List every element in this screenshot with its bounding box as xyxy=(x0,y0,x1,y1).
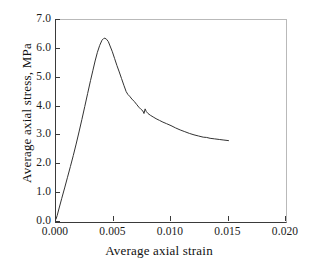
x-tick-mark xyxy=(113,216,114,221)
stress-strain-curve xyxy=(56,20,286,222)
curve-polyline xyxy=(56,38,229,219)
y-tick-mark xyxy=(55,192,60,193)
y-tick-mark xyxy=(55,48,60,49)
x-tick-label: 0.010 xyxy=(142,226,198,238)
x-tick-label: 0.000 xyxy=(27,226,83,238)
x-tick-mark xyxy=(285,216,286,221)
x-tick-mark xyxy=(228,216,229,221)
y-tick-mark xyxy=(55,106,60,107)
y-tick-mark xyxy=(55,221,60,222)
y-tick-mark xyxy=(55,77,60,78)
y-tick-mark xyxy=(55,134,60,135)
y-tick-mark xyxy=(55,163,60,164)
x-tick-label: 0.005 xyxy=(85,226,141,238)
x-axis-title: Average axial strain xyxy=(0,243,318,259)
y-tick-mark xyxy=(55,19,60,20)
y-axis-title: Average axial stress, MPa xyxy=(19,8,35,218)
chart-figure: 7.06.05.04.03.02.01.00.0 0.0000.0050.010… xyxy=(0,0,318,270)
plot-area xyxy=(55,19,287,223)
x-tick-label: 0.015 xyxy=(200,226,256,238)
x-axis-tick-labels: 0.0000.0050.0100.0150.020 xyxy=(0,226,318,242)
x-tick-mark xyxy=(170,216,171,221)
x-tick-label: 0.020 xyxy=(257,226,313,238)
x-tick-mark xyxy=(55,216,56,221)
